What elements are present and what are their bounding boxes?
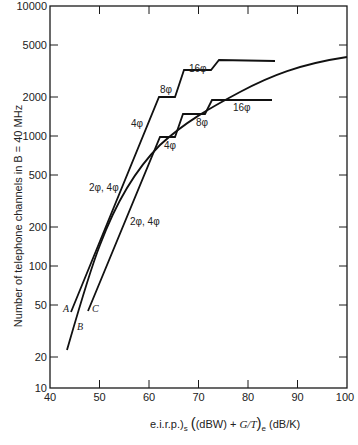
x-tick-labels: 40 50 60 70 80 90 100 bbox=[44, 391, 354, 403]
x-label-g-over-t: G/T bbox=[239, 418, 256, 430]
x-tick-90: 90 bbox=[291, 391, 303, 403]
chart-canvas: 10000 5000 2000 1000 500 200 100 50 20 1… bbox=[0, 0, 358, 445]
y-tick-5000: 5000 bbox=[23, 39, 47, 51]
y-tick-20: 20 bbox=[35, 351, 47, 363]
y-tick-500: 500 bbox=[29, 169, 47, 181]
x-label-dbw: (dBW) + bbox=[196, 418, 240, 430]
curve-a-label: A bbox=[62, 303, 70, 314]
annotation-c-16phi: 16φ bbox=[233, 102, 251, 113]
annotation-c-8phi: 8φ bbox=[196, 117, 209, 128]
y-tick-2000: 2000 bbox=[23, 91, 47, 103]
x-tick-100: 100 bbox=[336, 391, 354, 403]
annotation-a-2phi-4phi: 2φ, 4φ bbox=[89, 182, 119, 193]
x-tick-40: 40 bbox=[44, 391, 56, 403]
x-label-sub-e: e bbox=[262, 424, 266, 433]
x-label-sub-s: s bbox=[184, 424, 188, 433]
y-tick-50: 50 bbox=[35, 299, 47, 311]
curve-c-label: C bbox=[92, 303, 99, 314]
y-tick-100: 100 bbox=[29, 260, 47, 272]
annotation-c-4phi: 4φ bbox=[164, 140, 177, 151]
x-tick-60: 60 bbox=[143, 391, 155, 403]
x-tick-70: 70 bbox=[192, 391, 204, 403]
y-tick-200: 200 bbox=[29, 221, 47, 233]
x-tick-50: 50 bbox=[93, 391, 105, 403]
y-axis-label: Number of telephone channels in B = 40 M… bbox=[12, 86, 24, 346]
y-tick-1000: 1000 bbox=[23, 130, 47, 142]
curve-c-line bbox=[88, 100, 272, 311]
annotation-a-16phi: 16φ bbox=[189, 63, 207, 74]
x-tick-80: 80 bbox=[242, 391, 254, 403]
curve-b-label: B bbox=[77, 321, 83, 332]
annotation-c-2phi-4phi: 2φ, 4φ bbox=[130, 216, 160, 227]
x-axis-label: e.i.r.p.)s ((dBW) + G/T)e (dB/K) bbox=[150, 414, 300, 433]
curve-b-line bbox=[67, 57, 347, 350]
annotation-a-4phi: 4φ bbox=[131, 118, 144, 129]
x-label-unit: (dB/K) bbox=[269, 418, 300, 430]
x-label-eirp: e.i.r.p.) bbox=[150, 418, 184, 430]
y-tick-10000: 10000 bbox=[16, 0, 47, 12]
annotation-a-8phi: 8φ bbox=[160, 84, 173, 95]
